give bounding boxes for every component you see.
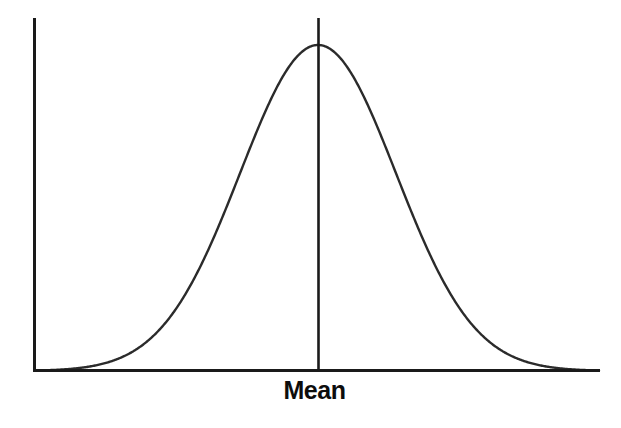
distribution-plot-canvas xyxy=(0,0,621,428)
normal-distribution-figure: Mean xyxy=(0,0,621,428)
mean-label-text: Mean xyxy=(284,376,346,404)
plot-background xyxy=(0,0,621,428)
mean-axis-label: Mean xyxy=(0,376,621,404)
